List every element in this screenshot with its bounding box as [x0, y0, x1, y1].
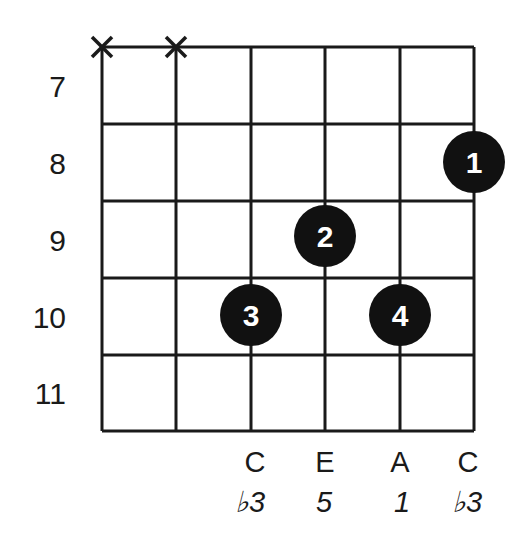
note-label: E — [315, 446, 334, 478]
fret-label: 8 — [49, 147, 66, 180]
fretboard-grid — [102, 47, 474, 431]
fret-label: 7 — [49, 70, 66, 103]
note-label: A — [390, 446, 410, 478]
svg-text:1: 1 — [466, 146, 483, 179]
interval-label: 1 — [394, 486, 410, 518]
svg-text:2: 2 — [317, 220, 334, 253]
finger-dot-2: 2 — [294, 205, 356, 267]
note-labels: C E A C — [245, 446, 479, 478]
finger-dot-4: 4 — [369, 284, 431, 346]
interval-label: ♭3 — [235, 486, 265, 518]
fret-label: 11 — [35, 377, 66, 410]
fret-labels: 7 8 9 10 11 — [33, 70, 66, 410]
interval-label: 5 — [316, 486, 333, 518]
svg-text:4: 4 — [392, 299, 409, 332]
note-label: C — [458, 446, 479, 478]
svg-text:3: 3 — [243, 299, 260, 332]
interval-labels: ♭3 5 1 ♭3 — [235, 486, 482, 518]
finger-dot-1: 1 — [443, 131, 505, 193]
fret-label: 9 — [49, 224, 66, 257]
interval-label: ♭3 — [452, 486, 482, 518]
chord-diagram: 7 8 9 10 11 1 2 3 4 C E A C ♭3 5 1 ♭3 — [0, 0, 530, 552]
fret-label: 10 — [33, 301, 66, 334]
note-label: C — [245, 446, 266, 478]
finger-dot-3: 3 — [220, 284, 282, 346]
